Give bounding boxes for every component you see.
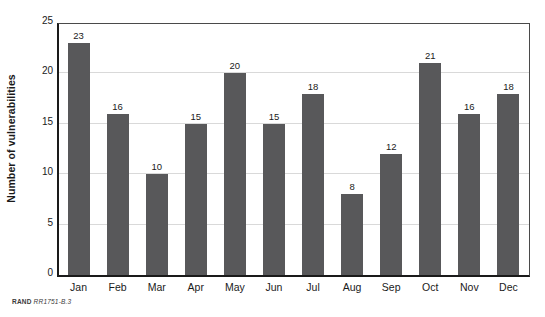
x-tick-label: Oct <box>422 281 438 293</box>
bar[interactable] <box>146 174 168 275</box>
y-axis-tick-marks <box>26 23 57 277</box>
bar-group[interactable]: 21 <box>411 23 450 275</box>
chart-figure: Number of vulnerabilities 0510152025 231… <box>0 0 545 317</box>
x-tick-label: Mar <box>148 281 166 293</box>
x-axis-tick-labels: JanFebMarAprMayJunJulAugSepOctNovDec <box>59 281 528 297</box>
bar-series: 23161015201518812211618 <box>59 23 528 275</box>
x-tick-label: Jun <box>265 281 282 293</box>
bar-value-label: 15 <box>269 111 280 122</box>
x-tick-label: Feb <box>109 281 127 293</box>
bar-group[interactable]: 15 <box>254 23 293 275</box>
bar-value-label: 18 <box>308 81 319 92</box>
footer-credit: RAND RR1751-B.3 <box>12 298 71 305</box>
bar[interactable] <box>497 94 519 275</box>
bar[interactable] <box>263 124 285 275</box>
x-tick-label: May <box>225 281 245 293</box>
bar-value-label: 16 <box>112 101 123 112</box>
bar-group[interactable]: 15 <box>176 23 215 275</box>
bar-group[interactable]: 10 <box>137 23 176 275</box>
bar-value-label: 18 <box>503 81 514 92</box>
bar-group[interactable]: 16 <box>450 23 489 275</box>
x-tick-label: Dec <box>499 281 518 293</box>
bar[interactable] <box>107 114 129 275</box>
bar-group[interactable]: 16 <box>98 23 137 275</box>
bar-value-label: 16 <box>464 101 475 112</box>
bar[interactable] <box>419 63 441 275</box>
bar-value-label: 15 <box>190 111 201 122</box>
bar-value-label: 8 <box>349 181 354 192</box>
bar-group[interactable]: 18 <box>294 23 333 275</box>
y-axis-title: Number of vulnerabilities <box>0 0 22 277</box>
bar[interactable] <box>458 114 480 275</box>
bar-value-label: 10 <box>151 161 162 172</box>
bar[interactable] <box>68 43 90 275</box>
footer-org-label: RAND <box>12 298 32 305</box>
bar[interactable] <box>341 194 363 275</box>
bar-group[interactable]: 18 <box>489 23 528 275</box>
bar[interactable] <box>185 124 207 275</box>
bar-value-label: 12 <box>386 141 397 152</box>
x-tick-label: Jul <box>306 281 319 293</box>
bar-value-label: 23 <box>73 30 84 41</box>
footer-identifier: RR1751-B.3 <box>34 298 72 305</box>
x-tick-label: Nov <box>460 281 479 293</box>
bar-value-label: 20 <box>230 60 241 71</box>
bar-group[interactable]: 23 <box>59 23 98 275</box>
x-tick-label: Aug <box>343 281 362 293</box>
bar-group[interactable]: 20 <box>215 23 254 275</box>
bar[interactable] <box>302 94 324 275</box>
bar[interactable] <box>224 73 246 275</box>
x-tick-label: Sep <box>382 281 401 293</box>
bar-group[interactable]: 8 <box>333 23 372 275</box>
x-tick-label: Jan <box>70 281 87 293</box>
bar-value-label: 21 <box>425 50 436 61</box>
x-tick-label: Apr <box>188 281 204 293</box>
bar-group[interactable]: 12 <box>372 23 411 275</box>
bar[interactable] <box>380 154 402 275</box>
